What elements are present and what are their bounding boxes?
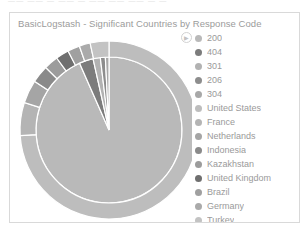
legend-items: 200404301206304United StatesFranceNether… [195,31,293,223]
legend-color-swatch [195,203,202,210]
legend-item[interactable]: Indonesia [195,143,293,157]
legend-item[interactable]: 200 [195,31,293,45]
clipped-toolbar-strip: —— —— — —— — —— —— —— — — [0,0,308,11]
legend-item-label: 301 [207,61,222,71]
chart-legend: ▶ 200404301206304United StatesFranceNeth… [195,31,293,223]
legend-item[interactable]: Kazakhstan [195,157,293,171]
legend-item[interactable]: Brazil [195,185,293,199]
legend-item-label: Brazil [207,187,230,197]
legend-color-swatch [195,175,202,182]
legend-item-label: 404 [207,47,222,57]
pie-chart[interactable] [10,30,192,223]
legend-item[interactable]: Turkey [195,213,293,223]
legend-item-label: United Kingdom [207,173,271,183]
legend-item[interactable]: 206 [195,73,293,87]
legend-toggle-glyph: ▶ [184,35,189,41]
legend-item[interactable]: United States [195,101,293,115]
legend-item-label: 200 [207,33,222,43]
legend-color-swatch [195,91,202,98]
legend-color-swatch [195,49,202,56]
visualization-screenshot: —— —— — —— — —— —— —— — — BasicLogstash … [0,0,308,233]
legend-color-swatch [195,77,202,84]
legend-item-label: Netherlands [207,131,256,141]
legend-color-swatch [195,63,202,70]
legend-color-swatch [195,133,202,140]
legend-item-label: 304 [207,89,222,99]
legend-item-label: France [207,117,235,127]
panel-title: BasicLogstash - Significant Countries by… [18,18,262,29]
legend-item[interactable]: United Kingdom [195,171,293,185]
legend-color-swatch [195,217,202,224]
legend-item-label: Indonesia [207,145,246,155]
legend-color-swatch [195,189,202,196]
legend-item-label: Turkey [207,215,234,223]
legend-item-label: Kazakhstan [207,159,254,169]
visualization-panel: BasicLogstash - Significant Countries by… [9,12,300,223]
legend-item[interactable]: Netherlands [195,129,293,143]
legend-item[interactable]: 301 [195,59,293,73]
chevron-right-icon[interactable]: ▶ [181,32,192,43]
legend-item[interactable]: 304 [195,87,293,101]
clipped-toolbar-text: —— —— — —— — —— —— —— — — [8,0,168,4]
pie-chart-svg [10,30,192,223]
legend-color-swatch [195,147,202,154]
legend-item[interactable]: France [195,115,293,129]
legend-color-swatch [195,105,202,112]
legend-color-swatch [195,119,202,126]
legend-item[interactable]: Germany [195,199,293,213]
legend-item-label: Germany [207,201,244,211]
pie-slice[interactable] [90,41,109,59]
legend-color-swatch [195,161,202,168]
legend-item[interactable]: 404 [195,45,293,59]
legend-item-label: 206 [207,75,222,85]
legend-color-swatch [195,35,202,42]
legend-item-label: United States [207,103,261,113]
